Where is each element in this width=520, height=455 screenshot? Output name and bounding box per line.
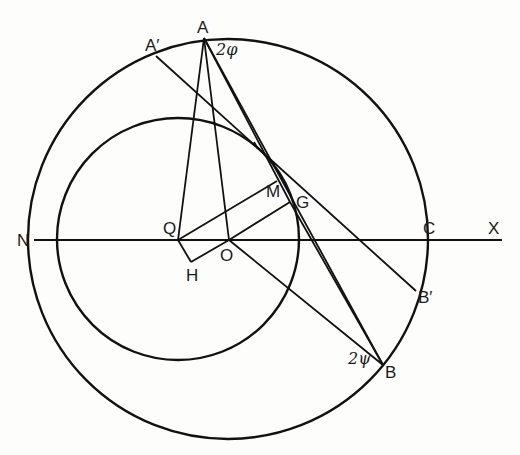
label-two-phi: 2φ bbox=[215, 40, 238, 59]
line-GB bbox=[290, 202, 383, 365]
line-QH bbox=[178, 240, 191, 262]
label-B-prime: B′ bbox=[418, 288, 433, 307]
label-B: B bbox=[385, 363, 396, 382]
line-AG bbox=[204, 38, 290, 202]
label-A: A bbox=[197, 18, 209, 37]
line-OB bbox=[229, 240, 383, 365]
tangent-line-A-prime-B-prime bbox=[156, 56, 416, 291]
label-H: H bbox=[186, 266, 198, 285]
line-OG bbox=[229, 202, 290, 240]
label-G: G bbox=[296, 193, 309, 212]
label-O: O bbox=[220, 246, 233, 265]
line-AB bbox=[204, 38, 383, 365]
label-A-prime: A′ bbox=[145, 36, 160, 55]
geometry-diagram: A A′ 2φ M G Q O H N C X B′ 2ψ B bbox=[0, 0, 520, 455]
label-two-psi: 2ψ bbox=[347, 349, 371, 368]
label-Q: Q bbox=[163, 219, 176, 238]
label-X: X bbox=[488, 219, 499, 238]
line-AO bbox=[204, 38, 229, 240]
label-M: M bbox=[266, 182, 280, 201]
line-AQ bbox=[178, 38, 204, 240]
label-N: N bbox=[17, 231, 29, 250]
label-C: C bbox=[423, 219, 435, 238]
